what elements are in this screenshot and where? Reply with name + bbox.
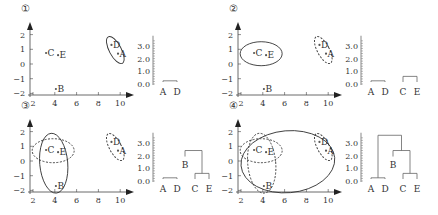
x-tick-label: 2 — [238, 196, 243, 205]
point-label-b: B — [265, 84, 272, 94]
dendrogram-axis: 3.02.01.00.0 — [345, 133, 363, 186]
y-tick-label: 0 — [228, 157, 233, 166]
x-tick-label: 4 — [52, 196, 57, 205]
point-label-c: C — [48, 48, 55, 58]
dendrogram: ADCEB — [367, 135, 421, 194]
x-tick-label: 6 — [74, 99, 79, 108]
dendrogram-axis: 3.02.01.00.0 — [137, 36, 155, 89]
dendro-tick-label: 2.0 — [137, 55, 150, 64]
dendro-tick-label: 3.0 — [137, 42, 150, 51]
y-axis-arrow-icon — [235, 22, 241, 30]
x-tick-label: 4 — [52, 99, 57, 108]
x-tick-label: 8 — [96, 99, 101, 108]
dendro-link-ce — [403, 173, 417, 179]
x-tick-label: 10 — [323, 196, 333, 205]
point-label-d: D — [321, 40, 328, 50]
y-tick-label: −1 — [13, 75, 25, 84]
dendro-link-adbce — [378, 135, 402, 178]
step-label: ① — [21, 3, 30, 14]
panel-4: ④210−1−2246810ABCDE3.02.01.00.0ADCEB — [221, 100, 420, 205]
dendro-tick-label: 1.0 — [137, 164, 150, 173]
x-tick-label: 2 — [30, 99, 35, 108]
x-tick-label: 2 — [238, 99, 243, 108]
dendro-tick-label: 3.0 — [345, 42, 358, 51]
y-axis-arrow-icon — [27, 119, 33, 127]
dendro-tick-label: 0.0 — [345, 177, 358, 186]
y-tick-label: −1 — [13, 172, 25, 181]
y-tick-label: −2 — [221, 89, 233, 98]
dendro-leaf-c: C — [400, 184, 407, 194]
point-label-b: B — [265, 181, 272, 191]
x-tick-label: 10 — [323, 99, 333, 108]
y-tick-label: 1 — [20, 45, 25, 54]
cluster-bce-solid — [37, 132, 70, 194]
dendro-leaf-d: D — [381, 184, 388, 194]
dendro-tick-label: 0.0 — [137, 177, 150, 186]
dendro-tick-label: 3.0 — [345, 139, 358, 148]
point-label-a: A — [327, 49, 335, 59]
point-label-e: E — [268, 147, 275, 157]
scatter-axes: 210−1−2246810 — [221, 22, 342, 108]
dendro-leaf-a: A — [367, 184, 375, 194]
y-tick-label: −2 — [13, 89, 25, 98]
dendro-link-ad — [163, 178, 177, 179]
y-axis-arrow-icon — [235, 119, 241, 127]
point-label-c: C — [256, 48, 263, 58]
scatter-axes: 210−1−2246810 — [13, 119, 134, 205]
point-label-c: C — [256, 145, 263, 155]
dendrogram: AD — [159, 81, 181, 97]
point-label-b: B — [57, 84, 64, 94]
dendro-leaf-a: A — [367, 87, 375, 97]
x-axis-arrow-icon — [126, 189, 134, 195]
step-label: ② — [229, 3, 238, 14]
cluster-bce-dashed — [245, 132, 278, 194]
y-tick-label: 2 — [20, 31, 25, 40]
dendro-tick-label: 1.0 — [345, 164, 358, 173]
point-label-a: A — [119, 146, 127, 156]
y-tick-label: −1 — [221, 172, 233, 181]
x-tick-label: 10 — [115, 99, 125, 108]
x-axis-arrow-icon — [334, 92, 342, 98]
y-tick-label: 0 — [20, 60, 25, 69]
dendrogram: ADCE — [367, 76, 421, 97]
panel-3: ③210−1−2246810ABCDE3.02.01.00.0ADCEB — [13, 100, 212, 205]
step-label: ③ — [21, 100, 30, 111]
y-tick-label: 2 — [228, 31, 233, 40]
dendro-link-ad — [371, 178, 385, 179]
dendrogram: ADCEB — [159, 151, 213, 194]
y-tick-label: 0 — [228, 60, 233, 69]
step-label: ④ — [229, 100, 238, 111]
point-label-c: C — [48, 145, 55, 155]
dendrogram-axis: 3.02.01.00.0 — [137, 133, 155, 186]
y-tick-label: −1 — [221, 75, 233, 84]
dendro-leaf-d: D — [381, 87, 388, 97]
dendro-leaf-a: A — [159, 184, 167, 194]
dendro-link-ad — [371, 81, 385, 82]
dendro-leaf-e: E — [414, 184, 421, 194]
point-label-e: E — [268, 50, 275, 60]
x-tick-label: 10 — [115, 196, 125, 205]
y-tick-label: 1 — [228, 45, 233, 54]
panel-1: ①210−1−2246810ABCDE3.02.01.00.0AD — [13, 3, 180, 108]
panel-2: ②210−1−2246810ABCDE3.02.01.00.0ADCE — [221, 3, 420, 108]
x-tick-label: 6 — [282, 196, 287, 205]
y-tick-label: 1 — [20, 142, 25, 151]
dendro-leaf-e: E — [414, 87, 421, 97]
dendro-tick-label: 1.0 — [345, 67, 358, 76]
y-tick-label: 2 — [20, 128, 25, 137]
dendro-leaf-c: C — [400, 87, 407, 97]
x-axis-arrow-icon — [126, 92, 134, 98]
clustering-figure: ①210−1−2246810ABCDE3.02.01.00.0AD②210−1−… — [0, 0, 438, 215]
x-tick-label: 8 — [304, 196, 309, 205]
x-tick-label: 2 — [30, 196, 35, 205]
y-tick-label: −2 — [221, 186, 233, 195]
y-tick-label: 1 — [228, 142, 233, 151]
dendro-tick-label: 0.0 — [137, 80, 150, 89]
dendro-leaf-b: B — [390, 160, 397, 170]
dendro-tick-label: 3.0 — [137, 139, 150, 148]
dendro-tick-label: 2.0 — [345, 55, 358, 64]
x-tick-label: 4 — [260, 196, 265, 205]
point-label-d: D — [113, 137, 120, 147]
scatter-axes: 210−1−2246810 — [221, 119, 342, 205]
y-tick-label: −2 — [13, 186, 25, 195]
